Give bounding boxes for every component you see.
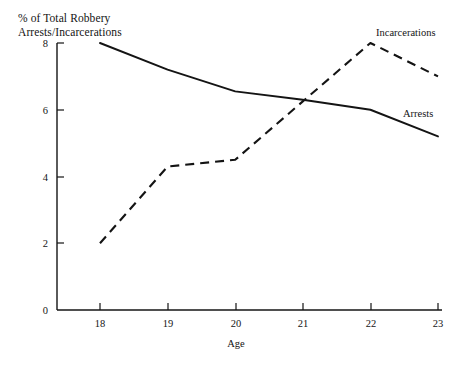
plot-area <box>0 0 457 365</box>
series-line-incarcerations <box>100 43 438 243</box>
y-tick-label-6: 6 <box>32 105 48 116</box>
series-line-arrests <box>100 43 438 136</box>
y-tick-label-8: 8 <box>32 38 48 49</box>
x-tick-label-18: 18 <box>90 318 110 329</box>
y-tick-label-2: 2 <box>32 238 48 249</box>
x-axis-title: Age <box>206 338 266 349</box>
series-group <box>100 43 438 243</box>
x-tick-label-21: 21 <box>293 318 313 329</box>
robbery-arrests-incarcerations-chart: % of Total Robbery Arrests/Incarceration… <box>0 0 457 365</box>
x-tick-label-22: 22 <box>361 318 381 329</box>
y-tick-label-4: 4 <box>32 172 48 183</box>
axes-group <box>57 43 442 310</box>
series-label-arrests: Arrests <box>403 108 433 119</box>
y-tick-label-0: 0 <box>32 305 48 316</box>
x-tick-label-23: 23 <box>428 318 448 329</box>
x-tick-label-19: 19 <box>158 318 178 329</box>
x-tick-label-20: 20 <box>226 318 246 329</box>
series-label-incarcerations: Incarcerations <box>376 27 435 38</box>
